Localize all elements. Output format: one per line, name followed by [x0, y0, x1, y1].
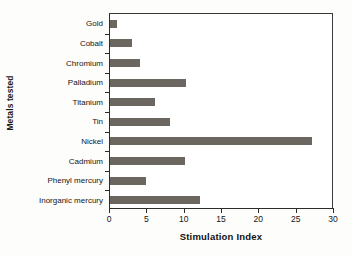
x-axis-tick — [258, 208, 259, 213]
y-axis-title-text: Metals tested — [5, 75, 15, 130]
y-axis-tick — [105, 92, 110, 93]
x-axis-tick-label: 0 — [107, 214, 112, 224]
bar — [110, 118, 170, 126]
y-axis-tick — [105, 53, 110, 54]
y-axis-tick — [105, 132, 110, 133]
x-axis-tick-label: 10 — [179, 214, 188, 224]
x-axis-tick — [109, 208, 110, 213]
bar — [110, 177, 146, 185]
x-axis-title: Stimulation Index — [109, 231, 333, 242]
y-axis-tick — [105, 151, 110, 152]
x-axis-tick-label: 15 — [216, 214, 225, 224]
category-label: Cadmium — [69, 157, 103, 166]
category-label: Gold — [86, 19, 103, 28]
bar — [110, 39, 132, 47]
category-label: Palladium — [68, 78, 103, 87]
x-axis-tick — [184, 208, 185, 213]
x-axis-tick — [296, 208, 297, 213]
bar — [110, 196, 200, 204]
category-label: Nickel — [81, 137, 103, 146]
bar — [110, 20, 117, 28]
bar — [110, 79, 186, 87]
category-label: Phenyl mercury — [47, 176, 103, 185]
x-axis-tick — [146, 208, 147, 213]
bar-chart-figure: Metals tested GoldCobaltChromiumPalladiu… — [0, 0, 352, 256]
x-axis-tick-label: 25 — [291, 214, 300, 224]
category-label: Titanium — [73, 98, 103, 107]
category-label: Tin — [92, 117, 103, 126]
x-axis-tick-labels: 051015202530 — [109, 214, 333, 226]
x-axis-tick-label: 20 — [254, 214, 263, 224]
x-axis-tick-label: 30 — [328, 214, 337, 224]
bar — [110, 157, 185, 165]
y-axis-tick — [105, 34, 110, 35]
category-label: Chromium — [66, 59, 103, 68]
category-label: Inorganic mercury — [39, 196, 103, 205]
y-axis-tick — [105, 112, 110, 113]
bar — [110, 98, 155, 106]
category-label: Cobalt — [80, 39, 103, 48]
x-axis-tick — [333, 208, 334, 213]
x-axis-tick — [221, 208, 222, 213]
y-axis-tick — [105, 190, 110, 191]
bars-layer — [110, 14, 332, 208]
bar — [110, 59, 140, 67]
category-label-list: GoldCobaltChromiumPalladiumTitaniumTinNi… — [16, 14, 106, 204]
y-axis-tick — [105, 73, 110, 74]
bar — [110, 137, 312, 145]
y-axis-tick — [105, 171, 110, 172]
plot-area — [109, 13, 333, 209]
x-axis-tick-label: 5 — [144, 214, 149, 224]
